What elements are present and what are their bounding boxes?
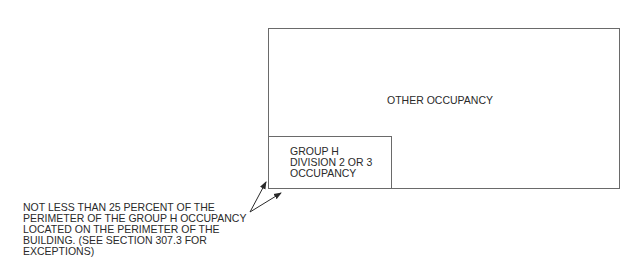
perimeter-requirement-note: NOT LESS THAN 25 PERCENT OF THE PERIMETE…: [23, 202, 246, 257]
group-h-label-line-3: OCCUPANCY: [290, 167, 356, 179]
other-occupancy-label: OTHER OCCUPANCY: [387, 95, 493, 106]
arrow-to-outer-wall-icon: [250, 182, 266, 212]
occupancy-diagram: OTHER OCCUPANCY GROUP H DIVISION 2 OR 3 …: [0, 0, 636, 265]
arrow-to-bottom-wall-icon: [250, 193, 281, 212]
note-line-5: EXCEPTIONS): [23, 245, 94, 257]
group-h-label: GROUP H DIVISION 2 OR 3 OCCUPANCY: [290, 146, 372, 179]
